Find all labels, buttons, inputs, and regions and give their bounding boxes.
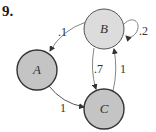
- node-c: C: [84, 89, 124, 129]
- node-b-label: B: [100, 21, 108, 36]
- edge-b-to-c: .7: [92, 48, 103, 89]
- edge-c-to-b: 1: [113, 49, 126, 91]
- node-c-label: C: [100, 101, 109, 116]
- edge-label-a-to-c: 1: [60, 101, 66, 115]
- edge-b-to-a: .1: [50, 22, 86, 51]
- edge-a-to-c: 1: [49, 86, 84, 115]
- edge-b-self-loop: .2: [124, 20, 148, 38]
- node-b: B: [84, 9, 124, 49]
- edge-label-b-self: .2: [139, 24, 148, 38]
- node-a-label: A: [32, 62, 41, 77]
- node-a: A: [17, 50, 57, 90]
- edge-label-b-to-c: .7: [94, 62, 103, 76]
- edge-label-c-to-b: 1: [120, 62, 126, 76]
- transition-diagram: .1 .2 .7 1 1 B A C: [0, 0, 156, 132]
- edge-label-b-to-a: .1: [58, 25, 67, 39]
